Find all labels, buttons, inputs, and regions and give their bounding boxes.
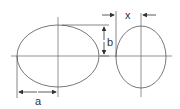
label-x: x bbox=[125, 9, 131, 21]
label-b: b bbox=[107, 36, 113, 48]
label-a: a bbox=[35, 95, 42, 107]
ellipse-dimension-diagram: b x a bbox=[0, 0, 180, 109]
